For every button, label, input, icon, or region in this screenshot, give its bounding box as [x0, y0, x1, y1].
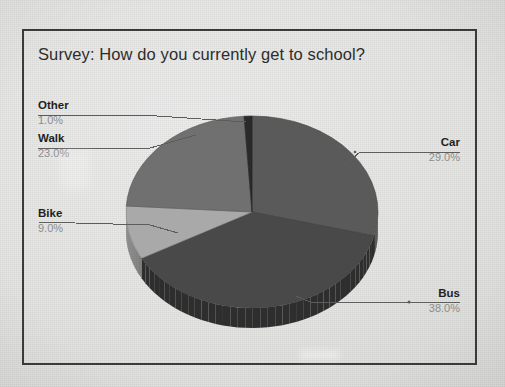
pie-side-bus: [188, 295, 195, 318]
pie-side-bike: [133, 243, 134, 264]
pie-label-other-percent: 1.0%: [38, 114, 69, 127]
pie-label-walk[interactable]: Walk 23.0%: [38, 132, 69, 160]
pie-side-bus: [223, 305, 230, 326]
pie-side-bus: [170, 285, 176, 309]
pie-side-bike: [138, 252, 139, 273]
pie-label-bus-name: Bus: [360, 287, 460, 300]
pie-side-bus: [275, 305, 282, 326]
pie-side-bus: [195, 298, 202, 320]
pie-label-bike-name: Bike: [38, 207, 63, 220]
pie-label-car[interactable]: Car 29.0%: [360, 136, 460, 164]
pie-side-bus: [245, 308, 253, 328]
pie-side-bus: [330, 284, 336, 308]
pie-side-bike: [137, 251, 138, 272]
pie-side-bike: [136, 250, 137, 271]
pie-slice-walk[interactable]: [126, 116, 252, 212]
pie-label-car-name: Car: [360, 136, 460, 149]
pie-chart-figure: [0, 0, 505, 387]
pie-side-bike: [132, 242, 133, 263]
pie-side-bus: [260, 307, 267, 328]
pie-side-bus: [283, 304, 290, 326]
pie-side-bus: [176, 288, 182, 311]
pie-label-walk-percent: 23.0%: [38, 147, 69, 160]
pie-label-bike-percent: 9.0%: [38, 222, 63, 235]
pie-side-bus: [209, 302, 216, 324]
pie-label-bus[interactable]: Bus 38.0%: [360, 287, 460, 315]
pie-3d-top-face: [126, 116, 378, 308]
pie-side-bike: [139, 255, 140, 276]
pie-side-bus: [297, 299, 304, 321]
pie-side-bike: [135, 248, 136, 269]
pie-side-bike: [140, 256, 141, 277]
pie-side-bike: [141, 257, 142, 278]
pie-side-bus: [290, 302, 297, 324]
pie-side-bus: [230, 307, 237, 328]
pie-side-bus: [202, 300, 209, 322]
pie-label-bus-percent: 38.0%: [360, 302, 460, 315]
pie-label-other[interactable]: Other 1.0%: [38, 99, 69, 127]
pie-side-bus: [317, 291, 323, 314]
pie-side-bus: [253, 308, 261, 328]
pie-side-bike: [134, 246, 135, 267]
pie-side-bus: [182, 292, 188, 315]
pie-side-bus: [268, 306, 275, 327]
pie-side-bus: [323, 288, 329, 311]
pie-label-other-name: Other: [38, 99, 69, 112]
pie-side-bike: [131, 240, 132, 261]
pie-label-walk-name: Walk: [38, 132, 69, 145]
pie-side-bike: [135, 247, 136, 268]
pie-label-bike[interactable]: Bike 9.0%: [38, 207, 63, 235]
pie-side-bus: [216, 304, 223, 325]
pie-side-bike: [138, 253, 139, 274]
pie-label-car-percent: 29.0%: [360, 151, 460, 164]
pie-side-bike: [132, 241, 133, 262]
pie-side-bus: [311, 294, 318, 317]
pie-side-bike: [134, 245, 135, 266]
pie-side-bus: [238, 307, 245, 327]
